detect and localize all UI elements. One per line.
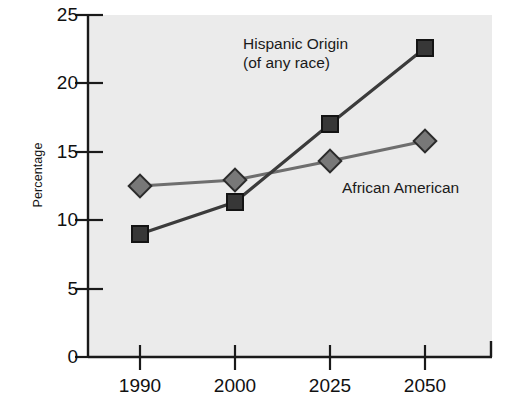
series-label-african-american: African American	[342, 178, 459, 197]
series-label-hispanic-origin-line1: Hispanic Origin	[243, 35, 348, 52]
x-tick-label-2050: 2050	[380, 376, 470, 395]
y-tick-label-0: 0	[36, 347, 78, 366]
y-tick-label-5: 5	[36, 279, 78, 298]
x-tick-label-2000: 2000	[190, 376, 280, 395]
series-label-hispanic-origin: Hispanic Origin (of any race)	[243, 34, 348, 73]
x-tick-label-1990: 1990	[95, 376, 185, 395]
y-tick-label-25: 25	[36, 5, 78, 24]
series-label-hispanic-origin-line2: (of any race)	[243, 53, 348, 72]
y-tick-label-10: 10	[36, 210, 78, 229]
y-axis-tick-labels: 25 20 15 10 5 0	[0, 0, 78, 405]
y-tick-label-20: 20	[36, 73, 78, 92]
x-tick-label-2025: 2025	[285, 376, 375, 395]
y-tick-label-15: 15	[36, 142, 78, 161]
series-label-african-american-line1: African American	[342, 179, 459, 196]
chart-container: Percentage 25 20 15 10 5 0 1990 2000 202…	[0, 0, 510, 405]
